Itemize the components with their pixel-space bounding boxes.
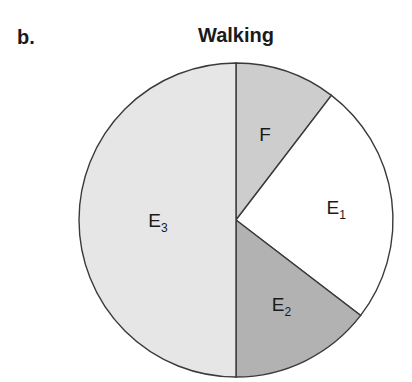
- pie-chart: FE1E2E3: [0, 0, 412, 382]
- slice-label-f: F: [259, 124, 271, 145]
